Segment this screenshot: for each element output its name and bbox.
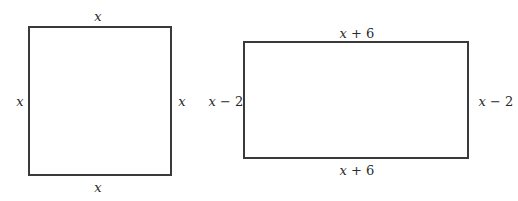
- rectangle-shape: [243, 41, 469, 159]
- rectangle-top-label: x + 6: [340, 27, 375, 40]
- square-top-label-text: x: [94, 9, 101, 24]
- square-right-label: x: [178, 95, 185, 108]
- square-left-label-text: x: [16, 94, 23, 109]
- diagram-canvas: x x x x x + 6 x + 6 x − 2 x − 2: [0, 0, 518, 201]
- square-shape: [28, 26, 172, 176]
- rectangle-left-label: x − 2: [209, 95, 244, 108]
- square-bottom-label: x: [94, 181, 101, 194]
- square-left-label: x: [16, 95, 23, 108]
- rectangle-bottom-label: x + 6: [340, 164, 375, 177]
- square-bottom-label-text: x: [94, 180, 101, 195]
- square-top-label: x: [94, 10, 101, 23]
- rectangle-right-label: x − 2: [479, 95, 514, 108]
- square-right-label-text: x: [178, 94, 185, 109]
